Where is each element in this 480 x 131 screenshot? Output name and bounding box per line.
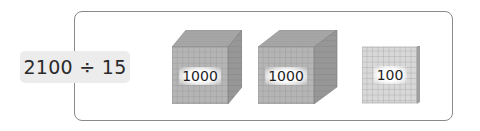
thousand-cube-2: 1000 [258, 30, 338, 104]
cube-2-label: 1000 [265, 67, 307, 85]
cube-1-label: 1000 [179, 67, 221, 85]
hundred-flat: 100 [362, 46, 420, 104]
expression-text: 2100 ÷ 15 [23, 56, 126, 78]
division-expression: 2100 ÷ 15 [20, 51, 130, 83]
flat-label: 100 [374, 66, 407, 84]
thousand-cube-1: 1000 [172, 30, 242, 104]
